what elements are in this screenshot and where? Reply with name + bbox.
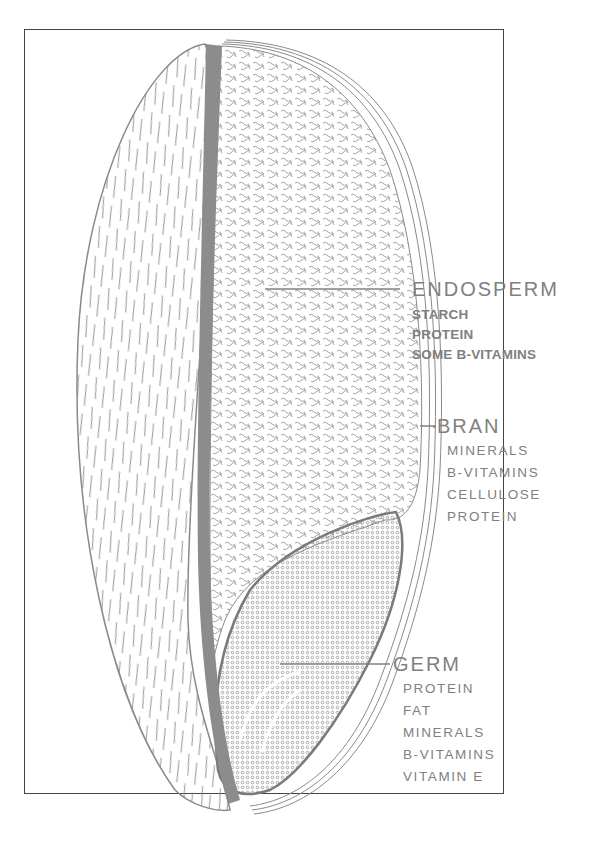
- endosperm-component: STARCH: [412, 305, 559, 325]
- germ-heading: GERM: [393, 653, 495, 676]
- bran-heading: BRAN: [437, 415, 541, 438]
- bran-label-group: BRAN MINERALS B-VITAMINS CELLULOSE PROTE…: [437, 415, 541, 528]
- endosperm-label-group: ENDOSPERM STARCH PROTEIN SOME B-VITAMINS: [412, 278, 559, 365]
- bran-component: PROTEIN: [447, 506, 541, 528]
- bran-component: CELLULOSE: [447, 484, 541, 506]
- germ-component: FAT: [403, 700, 495, 722]
- germ-component: VITAMIN E: [403, 766, 495, 788]
- endosperm-heading: ENDOSPERM: [412, 278, 559, 301]
- bran-component: MINERALS: [447, 440, 541, 462]
- endosperm-component: PROTEIN: [412, 325, 559, 345]
- germ-component: B-VITAMINS: [403, 744, 495, 766]
- bran-component: B-VITAMINS: [447, 462, 541, 484]
- germ-component: PROTEIN: [403, 678, 495, 700]
- germ-component: MINERALS: [403, 722, 495, 744]
- germ-label-group: GERM PROTEIN FAT MINERALS B-VITAMINS VIT…: [393, 653, 495, 788]
- endosperm-component: SOME B-VITAMINS: [412, 345, 559, 365]
